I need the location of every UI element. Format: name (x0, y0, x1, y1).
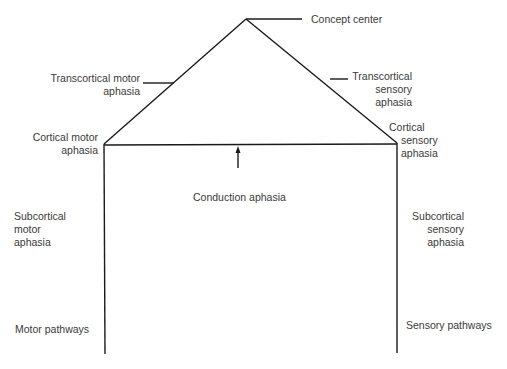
label-line: sensory (389, 134, 469, 147)
label-subcortical-sensory-aphasia: Subcortical sensory aphasia (400, 210, 464, 249)
label-line: motor (14, 223, 66, 236)
label-conduction-aphasia: Conduction aphasia (193, 191, 286, 204)
label-motor-pathways: Motor pathways (15, 323, 89, 336)
label-sensory-pathways: Sensory pathways (406, 319, 492, 332)
conduction-crossbar (104, 144, 397, 145)
diagram-lines (0, 0, 507, 369)
label-line: Cortical (389, 121, 469, 134)
label-transcortical-sensory-aphasia: Transcortical sensory aphasia (350, 70, 412, 109)
conduction-arrow-head (236, 146, 241, 153)
label-transcortical-motor-aphasia: Transcortical motor aphasia (38, 72, 140, 98)
label-cortical-sensory-aphasia: Cortical sensory aphasia (389, 121, 469, 160)
label-line: Subcortical (400, 210, 464, 223)
label-line: Transcortical (350, 70, 412, 83)
label-line: aphasia (350, 96, 412, 109)
label-line: Cortical motor (20, 131, 98, 144)
label-line: Subcortical (14, 210, 66, 223)
motor-pathway-line (104, 144, 105, 354)
label-subcortical-motor-aphasia: Subcortical motor aphasia (14, 210, 66, 249)
label-line: sensory (350, 83, 412, 96)
label-line: aphasia (20, 144, 98, 157)
label-line: aphasia (389, 147, 469, 160)
label-line: sensory (400, 223, 464, 236)
label-concept-center: Concept center (311, 13, 382, 26)
label-cortical-motor-aphasia: Cortical motor aphasia (20, 131, 98, 157)
label-line: aphasia (38, 85, 140, 98)
label-line: aphasia (400, 236, 464, 249)
label-line: aphasia (14, 236, 66, 249)
label-line: Transcortical motor (38, 72, 140, 85)
